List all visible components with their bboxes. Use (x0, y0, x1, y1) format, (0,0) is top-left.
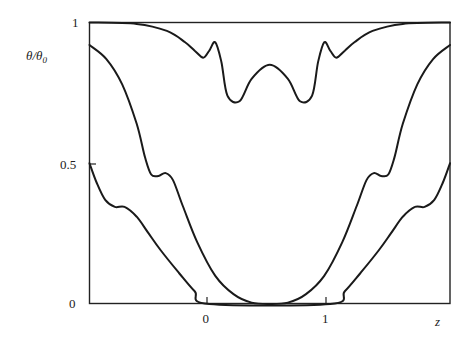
x-tick-label-1: 1 (322, 311, 329, 326)
y-axis-label-subscript: 0 (42, 55, 47, 65)
y-tick-label-0: 0 (69, 296, 76, 311)
y-axis-label-main: θ/θ (26, 48, 43, 63)
y-axis-label: θ/θ0 (26, 48, 47, 65)
x-tick-label-0: 0 (203, 311, 210, 326)
y-tick-label-0.5: 0.5 (60, 157, 76, 172)
middle-curve (90, 45, 451, 304)
lower-curve (90, 163, 451, 305)
y-tick-label-1: 1 (72, 15, 79, 30)
upper-curve (90, 23, 451, 103)
x-axis-label: z (434, 314, 440, 329)
chart-canvas: 1 0.5 0 0 1 θ/θ0 z (0, 0, 475, 342)
